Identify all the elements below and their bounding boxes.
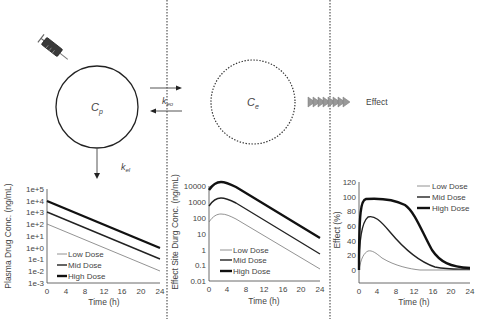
- svg-text:0: 0: [45, 287, 50, 296]
- arrow-right-icon: [150, 86, 182, 91]
- chart-plasma-concentration: 1e+5 1e+4 1e+3 1e+2 1e+1 1e+0 1e-1 1e-2 …: [3, 183, 165, 307]
- svg-text:1e+2: 1e+2: [26, 220, 45, 229]
- svg-text:100: 100: [343, 193, 357, 202]
- series-low-dose: [359, 251, 470, 270]
- svg-text:8: 8: [394, 287, 399, 296]
- svg-text:1e-1: 1e-1: [28, 255, 45, 264]
- legend: Low Dose Mid Dose High Dose: [417, 182, 470, 213]
- svg-text:1e+1: 1e+1: [26, 232, 45, 241]
- x-axis-label: Time (h): [88, 297, 119, 307]
- svg-text:12: 12: [260, 285, 269, 294]
- svg-text:1000: 1000: [188, 198, 206, 207]
- svg-text:16: 16: [279, 285, 288, 294]
- transfer-rate-label: keo: [162, 96, 174, 107]
- y-tick-labels: 120 100 80 60 40 20 0: [343, 178, 357, 275]
- chart-effect: 120 100 80 60 40 20 0 0 4 8 12 16 20 24 …: [332, 178, 475, 307]
- svg-text:High Dose: High Dose: [68, 272, 106, 281]
- svg-text:Mid Dose: Mid Dose: [233, 256, 267, 265]
- svg-text:0: 0: [352, 266, 357, 275]
- svg-text:24: 24: [156, 287, 165, 296]
- y-tick-labels: 10000 1000 100 10 1 0.1 0.01: [184, 182, 207, 286]
- x-tick-labels: 0 4 8 12 16 20 24: [357, 287, 475, 296]
- svg-text:8: 8: [244, 285, 249, 294]
- svg-text:High Dose: High Dose: [432, 204, 470, 213]
- chart-effect-site-concentration: 10000 1000 100 10 1 0.1 0.01 0 4 8 12 16…: [170, 174, 325, 306]
- svg-text:20: 20: [137, 287, 146, 296]
- svg-text:12: 12: [100, 287, 109, 296]
- effect-label: Effect: [366, 97, 388, 107]
- svg-text:Low Dose: Low Dose: [68, 250, 104, 259]
- svg-text:0: 0: [207, 285, 212, 294]
- svg-text:4: 4: [225, 285, 230, 294]
- series-high-dose: [209, 182, 320, 238]
- svg-text:80: 80: [347, 207, 356, 216]
- y-tick-labels: 1e+5 1e+4 1e+3 1e+2 1e+1 1e+0 1e-1 1e-2 …: [26, 185, 45, 288]
- svg-text:0.1: 0.1: [195, 261, 207, 270]
- svg-text:1e+0: 1e+0: [26, 244, 45, 253]
- triangle-chevron-arrow-icon: [308, 97, 350, 107]
- syringe-icon: [38, 34, 71, 63]
- svg-text:40: 40: [347, 237, 356, 246]
- svg-text:24: 24: [466, 287, 475, 296]
- svg-text:120: 120: [343, 178, 357, 187]
- x-axis-label: Time (h): [248, 296, 279, 306]
- svg-text:Low Dose: Low Dose: [432, 182, 468, 191]
- svg-text:16: 16: [429, 287, 438, 296]
- svg-text:20: 20: [297, 285, 306, 294]
- svg-text:1e+4: 1e+4: [26, 197, 45, 206]
- x-tick-labels: 0 4 8 12 16 20 24: [207, 285, 325, 294]
- y-axis-label: Effect (%): [332, 211, 342, 248]
- svg-text:Mid Dose: Mid Dose: [432, 193, 466, 202]
- svg-text:4: 4: [375, 287, 380, 296]
- svg-text:Mid Dose: Mid Dose: [68, 261, 102, 270]
- legend: Low Dose Mid Dose High Dose: [57, 250, 106, 281]
- y-axis-label: Plasma Drug Conc. (ng/mL): [3, 183, 13, 289]
- series-high-dose: [47, 201, 160, 248]
- series-mid-dose: [359, 217, 470, 270]
- legend: Low Dose Mid Dose High Dose: [220, 246, 271, 276]
- svg-text:20: 20: [447, 287, 456, 296]
- svg-text:1e+5: 1e+5: [26, 185, 45, 194]
- effect-site-compartment-label: Ce: [247, 96, 259, 110]
- x-axis-label: Time (h): [398, 297, 429, 307]
- elimination-rate-label: kel: [121, 162, 131, 173]
- pkpd-figure: Cp kel keo Ce Effect 1e+5 1e+4 1e+3: [0, 0, 486, 319]
- svg-text:8: 8: [83, 287, 88, 296]
- svg-text:24: 24: [316, 285, 325, 294]
- svg-text:16: 16: [118, 287, 127, 296]
- svg-text:0.01: 0.01: [190, 277, 206, 286]
- arrow-left-icon: [150, 109, 182, 114]
- svg-text:4: 4: [64, 287, 69, 296]
- svg-text:High Dose: High Dose: [233, 267, 271, 276]
- svg-text:100: 100: [193, 214, 207, 223]
- svg-text:1e-2: 1e-2: [28, 267, 45, 276]
- y-axis-label: Effect Site Durg Conc. (ng/mL): [170, 174, 180, 290]
- arrow-down-icon: [94, 148, 100, 179]
- svg-text:60: 60: [347, 222, 356, 231]
- plasma-compartment-label: Cp: [91, 101, 103, 116]
- svg-text:12: 12: [410, 287, 419, 296]
- svg-text:20: 20: [347, 251, 356, 260]
- svg-text:Low Dose: Low Dose: [233, 246, 269, 255]
- svg-text:1e-3: 1e-3: [28, 279, 45, 288]
- series-low-dose: [47, 224, 160, 271]
- svg-text:1e+3: 1e+3: [26, 208, 45, 217]
- svg-text:10: 10: [197, 230, 206, 239]
- svg-text:10000: 10000: [184, 182, 207, 191]
- x-tick-labels: 0 4 8 12 16 20 24: [45, 287, 165, 296]
- svg-text:0: 0: [357, 287, 362, 296]
- svg-text:1: 1: [202, 246, 207, 255]
